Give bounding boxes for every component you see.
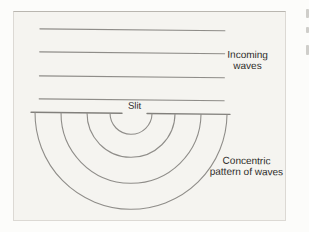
incoming-waves-label: Incoming waves (207, 49, 287, 72)
incoming-waves-label-line1: Incoming (208, 49, 288, 61)
diffraction-figure: Incoming waves Slit Concentric pattern o… (13, 11, 286, 221)
barrier-right-segment (147, 113, 230, 114)
concentric-wavefront-arc (110, 113, 152, 134)
concentric-pattern-label-line2: pattern of waves (198, 166, 294, 178)
incoming-wave-line (39, 76, 224, 78)
page-edge-artifact (306, 9, 309, 18)
incoming-wave-line (40, 52, 225, 54)
figure-content: Incoming waves Slit Concentric pattern o… (13, 11, 286, 222)
page-edge-artifact (306, 27, 309, 33)
barrier-left-segment (31, 112, 122, 113)
concentric-pattern-label: Concentric pattern of waves (198, 155, 294, 178)
concentric-wavefront-arc (87, 113, 175, 158)
page-edge-artifact (306, 45, 309, 55)
slit-label: Slit (112, 100, 157, 111)
incoming-waves-label-line2: waves (207, 60, 287, 72)
wave-diffraction-diagram (13, 11, 286, 222)
concentric-wavefront-arc (60, 113, 201, 184)
incoming-wave-line (40, 29, 225, 31)
